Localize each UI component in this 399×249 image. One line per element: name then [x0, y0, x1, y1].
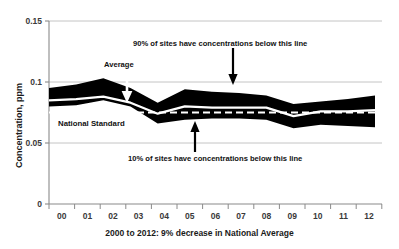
concentration-trend-chart: 0.15 0.1 0.05 0 00 01 02 03 04 05 06 07 … [0, 0, 399, 249]
annotation-average: Average [104, 60, 134, 69]
x-axis-title: 2000 to 2012: 9% decrease in National Av… [0, 228, 399, 238]
x-tick-label-12: 12 [356, 211, 382, 221]
arrow-90-percent-icon [228, 48, 237, 85]
x-tick-label-07: 07 [228, 211, 254, 221]
x-tick-label-10: 10 [305, 211, 331, 221]
y-tick-label-0: 0 [16, 199, 42, 209]
x-tick-label-06: 06 [203, 211, 229, 221]
x-tick-label-05: 05 [177, 211, 203, 221]
y-tick-label-0-15: 0.15 [16, 16, 42, 26]
x-tick-label-00: 00 [49, 211, 75, 221]
x-tick-label-09: 09 [279, 211, 305, 221]
y-tick-marks [45, 21, 49, 204]
x-tick-marks [49, 204, 382, 209]
x-tick-label-01: 01 [75, 211, 101, 221]
y-axis-title: Concentration, ppm [14, 83, 24, 168]
x-tick-label-11: 11 [331, 211, 357, 221]
annotation-10-percent: 10% of sites have concentrations below t… [128, 154, 302, 163]
annotation-standard: National Standard [58, 119, 125, 128]
x-tick-label-08: 08 [254, 211, 280, 221]
x-tick-label-03: 03 [126, 211, 152, 221]
annotation-90-percent: 90% of sites have concentrations below t… [133, 39, 307, 48]
x-tick-label-02: 02 [100, 211, 126, 221]
arrow-10-percent-icon [190, 121, 199, 152]
x-tick-label-04: 04 [151, 211, 177, 221]
